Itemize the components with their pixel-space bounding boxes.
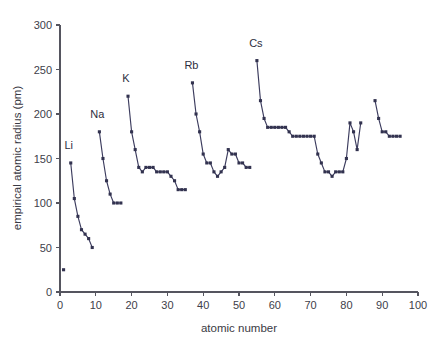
series-period-2 [69, 161, 94, 249]
data-point-marker [62, 268, 65, 271]
series-period-7 [373, 99, 401, 138]
series-period-3 [98, 130, 123, 204]
data-point-marker [237, 161, 240, 164]
series-hydrogen [62, 268, 65, 271]
data-point-marker [112, 201, 115, 204]
x-tick-label: 20 [125, 299, 137, 311]
data-point-marker [155, 170, 158, 173]
data-point-marker [395, 135, 398, 138]
data-point-marker [259, 99, 262, 102]
data-point-marker [352, 130, 355, 133]
x-tick-label: 60 [269, 299, 281, 311]
data-point-marker [280, 126, 283, 129]
x-axis-title: atomic number [201, 322, 277, 334]
data-point-marker [126, 95, 129, 98]
x-tick-label: 70 [304, 299, 316, 311]
data-point-marker [270, 126, 273, 129]
x-axis: 0102030405060708090100 [57, 292, 427, 311]
data-point-marker [230, 153, 233, 156]
data-point-marker [331, 175, 334, 178]
data-point-marker [98, 130, 101, 133]
y-axis: 050100150200250300 [34, 19, 60, 298]
series-label-Cs: Cs [249, 37, 263, 49]
y-tick-label: 50 [40, 242, 52, 254]
data-point-marker [391, 135, 394, 138]
data-point-marker [384, 130, 387, 133]
data-point-marker [359, 121, 362, 124]
data-point-marker [116, 201, 119, 204]
data-series-group [62, 59, 402, 271]
data-point-marker [169, 175, 172, 178]
data-point-marker [152, 166, 155, 169]
data-point-marker [377, 117, 380, 120]
data-point-marker [295, 135, 298, 138]
data-point-marker [173, 179, 176, 182]
data-point-marker [220, 170, 223, 173]
x-tick-label: 40 [197, 299, 209, 311]
data-point-marker [166, 170, 169, 173]
data-point-marker [80, 228, 83, 231]
data-point-marker [162, 170, 165, 173]
data-point-marker [191, 81, 194, 84]
data-point-marker [73, 197, 76, 200]
data-point-marker [373, 99, 376, 102]
data-point-marker [76, 215, 79, 218]
data-point-marker [348, 121, 351, 124]
data-point-marker [202, 153, 205, 156]
atomic-radius-chart-figure: 050100150200250300 010203040506070809010… [0, 0, 447, 344]
data-point-marker [320, 161, 323, 164]
series-annotations: LiNaKRbCs [64, 37, 263, 151]
data-point-marker [91, 246, 94, 249]
data-point-marker [327, 170, 330, 173]
data-point-marker [69, 161, 72, 164]
y-tick-label: 300 [34, 19, 52, 31]
data-point-marker [316, 153, 319, 156]
data-point-marker [212, 170, 215, 173]
data-point-marker [184, 188, 187, 191]
data-point-marker [109, 193, 112, 196]
data-point-marker [248, 166, 251, 169]
y-tick-label: 100 [34, 197, 52, 209]
data-point-marker [227, 148, 230, 151]
series-period-4 [126, 95, 186, 192]
series-label-Rb: Rb [184, 59, 198, 71]
series-period-5 [191, 81, 251, 178]
data-point-marker [345, 157, 348, 160]
data-point-marker [399, 135, 402, 138]
data-point-marker [194, 112, 197, 115]
series-label-K: K [122, 72, 130, 84]
data-point-marker [159, 170, 162, 173]
x-tick-label: 80 [340, 299, 352, 311]
x-tick-label: 90 [376, 299, 388, 311]
data-point-marker [84, 233, 87, 236]
data-point-marker [101, 157, 104, 160]
y-tick-label: 0 [46, 286, 52, 298]
data-point-marker [216, 175, 219, 178]
data-point-marker [263, 117, 266, 120]
data-point-marker [141, 170, 144, 173]
data-point-marker [137, 166, 140, 169]
data-point-marker [119, 201, 122, 204]
data-point-marker [180, 188, 183, 191]
data-point-marker [277, 126, 280, 129]
data-point-marker [305, 135, 308, 138]
data-point-marker [273, 126, 276, 129]
data-point-marker [309, 135, 312, 138]
data-point-marker [241, 161, 244, 164]
data-point-marker [302, 135, 305, 138]
data-point-marker [338, 170, 341, 173]
data-point-marker [284, 126, 287, 129]
y-tick-label: 150 [34, 153, 52, 165]
data-point-marker [266, 126, 269, 129]
data-point-marker [388, 135, 391, 138]
data-point-marker [144, 166, 147, 169]
x-tick-label: 100 [409, 299, 427, 311]
data-point-marker [234, 153, 237, 156]
data-point-marker [223, 166, 226, 169]
y-tick-label: 250 [34, 64, 52, 76]
data-point-marker [177, 188, 180, 191]
data-point-marker [298, 135, 301, 138]
data-point-marker [87, 237, 90, 240]
x-tick-label: 0 [57, 299, 63, 311]
data-point-marker [255, 59, 258, 62]
